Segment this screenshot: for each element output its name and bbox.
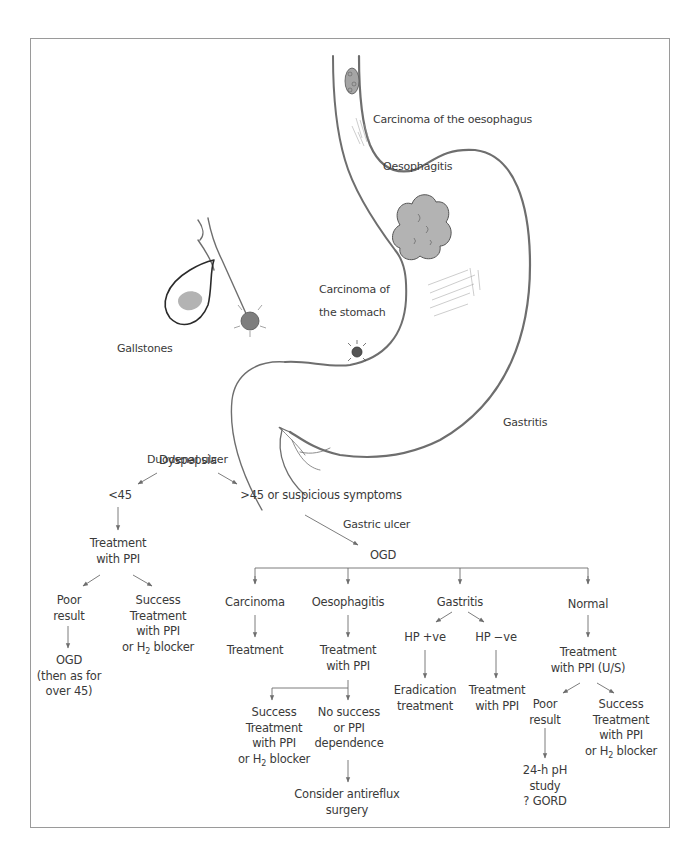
node-hp-positive: HP +ve <box>404 630 446 646</box>
pylorus-inner <box>279 427 305 495</box>
node-normal-treatment: Treatment with PPI (U/S) <box>551 645 626 676</box>
node-antireflux-surgery: Consider antireflux surgery <box>294 787 399 818</box>
duodenal-ulcer-lesion <box>234 305 266 337</box>
node-under-45: <45 <box>108 488 132 504</box>
node-dyspepsia: Dyspepsia <box>159 453 217 469</box>
oesophagitis-texture <box>352 118 369 146</box>
node-normal-success: Success Treatment with PPI or H2 blocker <box>585 697 657 759</box>
label-oesophagitis: Oesophagitis <box>383 159 452 174</box>
node-over-45: >45 or suspicious symptoms <box>240 488 401 504</box>
node-carcinoma: Carcinoma <box>225 595 285 611</box>
label-carcinoma-stomach-line1: Carcinoma of <box>319 282 390 297</box>
node-normal-poor: Poor result <box>529 697 560 728</box>
node-under45-poor: Poor result <box>53 593 84 624</box>
node-carcinoma-treatment: Treatment <box>227 643 284 659</box>
node-under45-treatment: Treatment with PPI <box>90 536 147 567</box>
node-hp-neg-treatment: Treatment with PPI <box>469 683 526 714</box>
node-oesophagitis-no-success: No success or PPI dependence <box>314 705 383 752</box>
node-oesophagitis-treatment: Treatment with PPI <box>320 643 377 674</box>
label-gastritis: Gastritis <box>503 415 547 430</box>
node-under45-ogd: OGD (then as for over 45) <box>37 653 101 700</box>
node-oesophagitis-success: Success Treatment with PPI or H2 blocker <box>238 705 310 767</box>
node-ogd: OGD <box>370 548 396 564</box>
node-oesophagitis: Oesophagitis <box>312 595 385 611</box>
node-ph-study: 24-h pH study ? GORD <box>523 763 567 810</box>
carcinoma-oesophagus-lesion <box>345 68 359 94</box>
bile-duct <box>198 218 248 318</box>
label-carcinoma-stomach-line2: the stomach <box>319 305 386 320</box>
label-gastric-ulcer: Gastric ulcer <box>343 517 410 532</box>
node-under45-success: Success Treatment with PPI or H2 blocker <box>122 593 194 655</box>
node-normal: Normal <box>568 597 608 613</box>
gastric-ulcer-lesion <box>348 340 366 361</box>
label-gallstones: Gallstones <box>117 341 173 356</box>
gallstone <box>178 291 202 310</box>
label-carcinoma-oesophagus: Carcinoma of the oesophagus <box>373 112 532 127</box>
node-gastritis: Gastritis <box>437 595 483 611</box>
gastritis-texture <box>428 268 480 316</box>
node-hp-negative: HP −ve <box>475 630 517 646</box>
carcinoma-stomach-lesion <box>393 195 452 260</box>
node-eradication-treatment: Eradication treatment <box>394 683 457 714</box>
